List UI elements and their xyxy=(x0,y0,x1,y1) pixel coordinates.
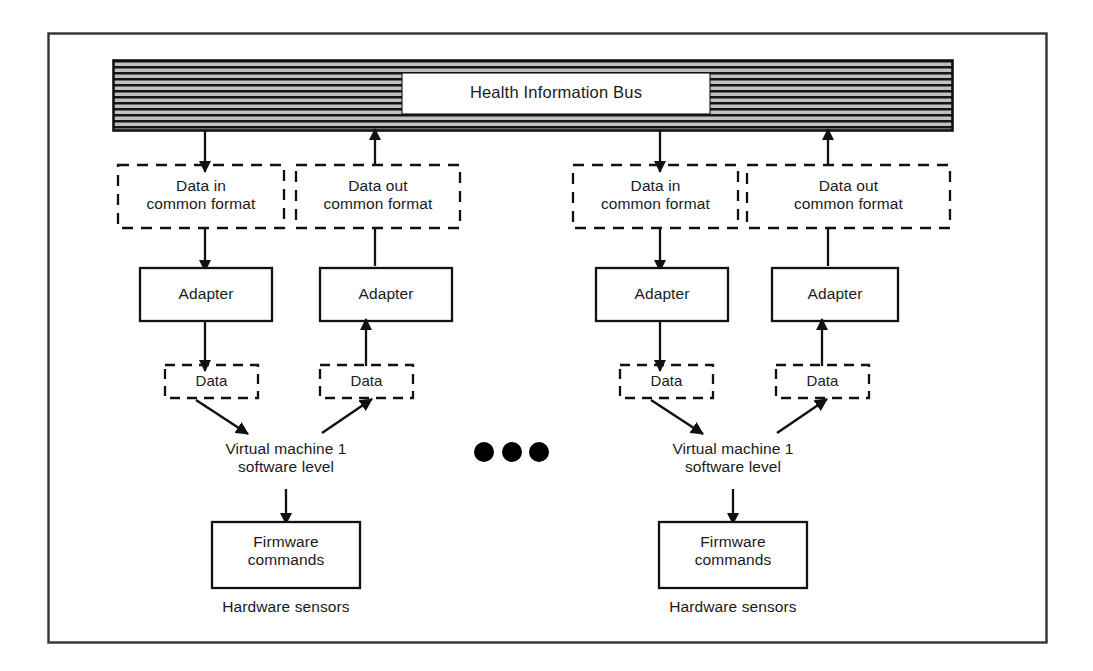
connector-col3-data-to-vm xyxy=(651,400,703,434)
label-data-col3: Data xyxy=(620,372,713,390)
label-common-format-col2: Data out common format xyxy=(296,177,460,214)
diagram-canvas: Health Information Bus Data in common fo… xyxy=(0,0,1093,671)
ellipsis-dots xyxy=(474,442,549,462)
label-firmware-right: Firmware commands xyxy=(659,533,807,570)
connector-vm-to-col2-data xyxy=(322,399,372,433)
label-adapter-col3: Adapter xyxy=(596,285,728,303)
label-common-format-col4: Data out common format xyxy=(747,177,950,214)
label-data-col1: Data xyxy=(165,372,258,390)
label-virtual-machine-left: Virtual machine 1 software level xyxy=(186,440,386,477)
connector-col1-data-to-vm xyxy=(196,400,248,434)
label-virtual-machine-right: Virtual machine 1 software level xyxy=(633,440,833,477)
label-adapter-col2: Adapter xyxy=(320,285,452,303)
label-hardware-sensors-right: Hardware sensors xyxy=(633,598,833,616)
label-firmware-left: Firmware commands xyxy=(212,533,360,570)
connector-vm-to-col4-data xyxy=(777,399,827,433)
label-common-format-col3: Data in common format xyxy=(573,177,738,214)
bus-label: Health Information Bus xyxy=(402,83,710,102)
label-data-col2: Data xyxy=(320,372,413,390)
label-common-format-col1: Data in common format xyxy=(118,177,284,214)
label-hardware-sensors-left: Hardware sensors xyxy=(186,598,386,616)
label-data-col4: Data xyxy=(776,372,869,390)
label-adapter-col1: Adapter xyxy=(140,285,272,303)
label-adapter-col4: Adapter xyxy=(772,285,898,303)
